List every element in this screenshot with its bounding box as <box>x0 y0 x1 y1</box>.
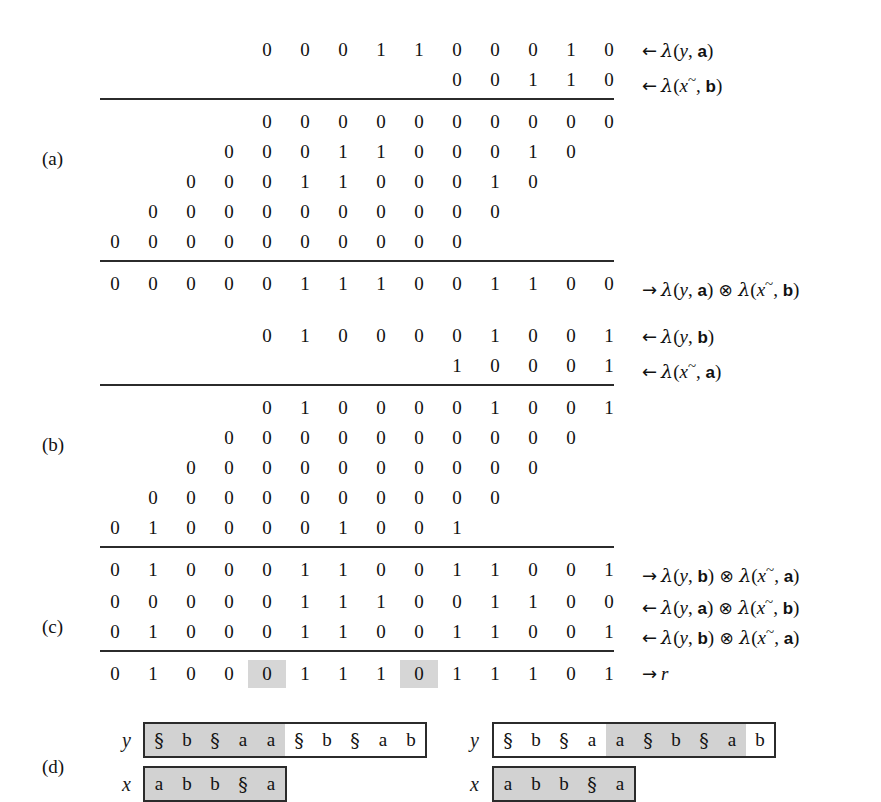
label-var: x <box>758 627 766 648</box>
lambda-glyph: λ <box>661 325 673 347</box>
digit-cell: 1 <box>286 618 324 646</box>
digit-cell: 1 <box>552 36 590 64</box>
digit-cell: 0 <box>476 352 514 380</box>
label-symbol: a <box>697 42 706 61</box>
word-char: a <box>578 724 606 756</box>
section-label-a: (a) <box>42 148 63 170</box>
lambda-glyph: λ <box>661 360 673 382</box>
digit-cell: 0 <box>172 228 210 256</box>
word-box-y: §b§aa§b§ab <box>492 722 776 758</box>
digit-cell: 0 <box>134 270 172 298</box>
digit-cell: 0 <box>134 198 172 226</box>
digit-cell: 0 <box>248 556 286 584</box>
digit-cell: 0 <box>172 484 210 512</box>
word-char: b <box>662 724 690 756</box>
lambda-glyph: λ <box>661 39 673 61</box>
label-arrow: ← <box>642 75 657 96</box>
digit-cell: 1 <box>590 394 628 422</box>
digit-cell: 0 <box>324 454 362 482</box>
tilde-glyph: ~ <box>765 276 773 292</box>
divider-rule <box>100 546 614 548</box>
word-char: § <box>201 724 229 756</box>
digit-cell: 1 <box>286 660 324 688</box>
tilde-glyph: ~ <box>688 358 696 374</box>
digit-cell: 1 <box>590 660 628 688</box>
digit-cell: 1 <box>286 394 324 422</box>
word-var-y: y <box>470 722 479 758</box>
word-box-x: abb§a <box>492 766 636 802</box>
label-symbol: b <box>783 599 793 618</box>
digit-cell: 0 <box>96 228 134 256</box>
digit-cell: 0 <box>210 588 248 616</box>
digit-cell: 0 <box>248 36 286 64</box>
digit-cell: 0 <box>514 322 552 350</box>
word-char: a <box>606 724 634 756</box>
digit-cell: 1 <box>134 660 172 688</box>
digit-cell: 0 <box>286 108 324 136</box>
label-symbol: a <box>784 567 793 586</box>
tilde-glyph: ~ <box>765 594 773 610</box>
word-char: § <box>145 724 173 756</box>
digit-cell: 0 <box>590 588 628 616</box>
word-char: § <box>285 724 313 756</box>
digit-cell: 0 <box>96 270 134 298</box>
digit-cell: 1 <box>476 618 514 646</box>
digit-cell: 0 <box>476 484 514 512</box>
label-var: y <box>679 40 687 61</box>
digit-cell: 0 <box>362 556 400 584</box>
digit-cell: 0 <box>438 168 476 196</box>
digit-cell: 1 <box>362 660 400 688</box>
digit-cell: 0 <box>400 618 438 646</box>
digit-cell-highlighted: 0 <box>400 660 438 688</box>
digit-cell: 0 <box>514 168 552 196</box>
digit-cell: 1 <box>476 660 514 688</box>
digit-cell: 1 <box>476 322 514 350</box>
digit-cell: 0 <box>324 198 362 226</box>
digit-cell: 1 <box>362 138 400 166</box>
label-arrow: ← <box>642 326 657 347</box>
digit-cell: 0 <box>590 270 628 298</box>
digit-cell: 0 <box>476 66 514 94</box>
digit-cell: 1 <box>438 514 476 542</box>
label-var: x <box>679 361 687 382</box>
digit-cell: 1 <box>324 660 362 688</box>
digit-cell: 0 <box>438 228 476 256</box>
lambda-glyph: λ <box>661 626 673 648</box>
label-var: x <box>679 75 687 96</box>
digit-cell: 0 <box>210 424 248 452</box>
word-char: a <box>257 768 285 800</box>
digit-cell: 1 <box>324 618 362 646</box>
digit-cell: 0 <box>362 618 400 646</box>
label-symbol: a <box>706 363 715 382</box>
digit-cell: 0 <box>438 66 476 94</box>
label-var: x <box>757 597 765 618</box>
row-label: →λ(y, b) ⊗ λ(x~, a) <box>642 556 799 584</box>
digit-cell: 0 <box>248 588 286 616</box>
digit-cell: 0 <box>362 484 400 512</box>
digit-cell: 0 <box>552 138 590 166</box>
digit-cell: 0 <box>248 618 286 646</box>
digit-cell: 0 <box>286 36 324 64</box>
digit-cell: 0 <box>210 228 248 256</box>
label-arrow: ← <box>642 597 657 618</box>
digit-cell: 0 <box>552 556 590 584</box>
digit-cell: 0 <box>362 228 400 256</box>
digit-cell: 0 <box>210 660 248 688</box>
digit-cell: 0 <box>438 198 476 226</box>
lambda-glyph: λ <box>738 596 750 618</box>
digit-cell: 0 <box>400 228 438 256</box>
digit-cell: 1 <box>362 36 400 64</box>
digit-cell: 0 <box>476 138 514 166</box>
digit-cell: 0 <box>590 66 628 94</box>
digit-cell: 0 <box>552 270 590 298</box>
digit-cell: 0 <box>400 454 438 482</box>
digit-cell: 1 <box>324 514 362 542</box>
digit-cell: 0 <box>514 618 552 646</box>
label-arrow: ← <box>642 627 657 648</box>
digit-cell: 0 <box>210 514 248 542</box>
digit-cell: 0 <box>476 108 514 136</box>
digit-cell: 0 <box>362 394 400 422</box>
lambda-glyph: λ <box>661 564 673 586</box>
digit-cell: 0 <box>210 556 248 584</box>
digit-cell: 0 <box>210 270 248 298</box>
